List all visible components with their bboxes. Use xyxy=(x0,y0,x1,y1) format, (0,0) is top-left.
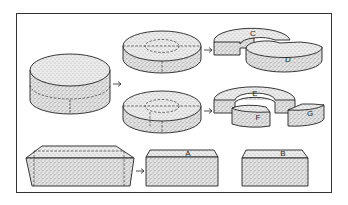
arrow-icon xyxy=(113,82,121,87)
label-d: D xyxy=(285,55,291,64)
lower-ring xyxy=(123,91,201,133)
label-c: C xyxy=(250,29,256,38)
piece-a: A xyxy=(146,149,218,186)
source-block xyxy=(26,146,134,186)
piece-b: B xyxy=(242,149,308,186)
label-a: A xyxy=(185,149,191,158)
label-b: B xyxy=(280,149,285,158)
label-f: F xyxy=(256,113,261,122)
label-g: G xyxy=(307,109,313,118)
arrow-icon xyxy=(136,169,144,174)
cutting-diagram: C D E F G A B xyxy=(0,0,348,205)
source-cylinder xyxy=(30,54,110,114)
upper-ring xyxy=(123,31,201,73)
piece-g: G xyxy=(288,104,324,126)
piece-d: D xyxy=(246,41,322,72)
piece-f: F xyxy=(232,105,270,127)
label-e: E xyxy=(252,89,257,98)
arrow-icon xyxy=(204,109,212,114)
arrow-icon xyxy=(204,48,212,53)
